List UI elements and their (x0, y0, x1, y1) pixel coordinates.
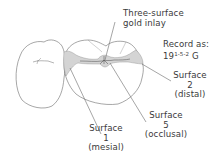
surface-distal-name: (distal) (172, 90, 208, 100)
surface-occlusal-name: (occlusal) (144, 130, 188, 140)
record-label: Record as: 191-5-2 G (163, 40, 209, 61)
restored-tooth (64, 40, 144, 105)
surface-mesial-label: Surface 1 (mesial) (88, 124, 124, 153)
surface-distal-label: Surface 2 (distal) (172, 71, 208, 100)
surface-occlusal-label: Surface 5 (occlusal) (144, 111, 188, 140)
record-code: 191-5-2 G (163, 50, 209, 62)
record-as-text: Record as: (163, 40, 209, 50)
inlay-label-line2: gold inlay (123, 19, 184, 29)
material-code: G (192, 51, 199, 61)
tooth-number: 19 (163, 51, 174, 61)
surface-code: 1-5-2 (174, 51, 189, 57)
neighbor-tooth (16, 40, 65, 108)
gold-inlay (64, 50, 143, 76)
leader-inlay (105, 22, 115, 60)
inlay-label: Three-surface gold inlay (123, 9, 184, 28)
surface-mesial-name: (mesial) (88, 143, 124, 153)
leader-distal (142, 64, 171, 81)
leader-occlusal (110, 63, 146, 122)
